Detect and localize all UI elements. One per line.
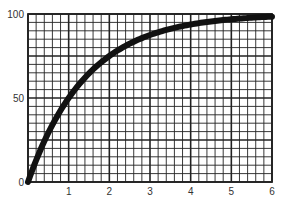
x-axis-ticks: 123456 [66, 186, 275, 197]
y-tick-label: 50 [13, 93, 25, 104]
x-tick-label: 5 [229, 186, 235, 197]
chart: 050100 123456 [0, 0, 289, 206]
grid [28, 14, 272, 182]
x-tick-label: 6 [269, 186, 275, 197]
x-tick-label: 2 [107, 186, 113, 197]
x-tick-label: 3 [147, 186, 153, 197]
x-tick-label: 4 [188, 186, 194, 197]
y-tick-label: 100 [7, 9, 24, 20]
y-tick-label: 0 [18, 177, 24, 188]
y-axis-ticks: 050100 [7, 9, 24, 188]
x-tick-label: 1 [66, 186, 72, 197]
